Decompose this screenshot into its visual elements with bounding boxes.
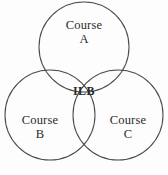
venn-diagram: Course A Course B Course C ILB [0, 0, 168, 175]
label-course-a-line1: Course [66, 18, 102, 32]
label-course-c-line2: C [96, 128, 160, 142]
label-course-a: Course A [0, 19, 168, 46]
label-course-c: Course C [96, 114, 160, 141]
label-course-c-line1: Course [110, 113, 146, 127]
label-intersection-ilb: ILB [0, 85, 168, 99]
label-course-a-line2: A [0, 33, 168, 47]
label-course-b: Course B [8, 114, 72, 141]
circle-course-a [39, 2, 129, 92]
label-course-b-line1: Course [22, 113, 58, 127]
label-course-b-line2: B [8, 128, 72, 142]
